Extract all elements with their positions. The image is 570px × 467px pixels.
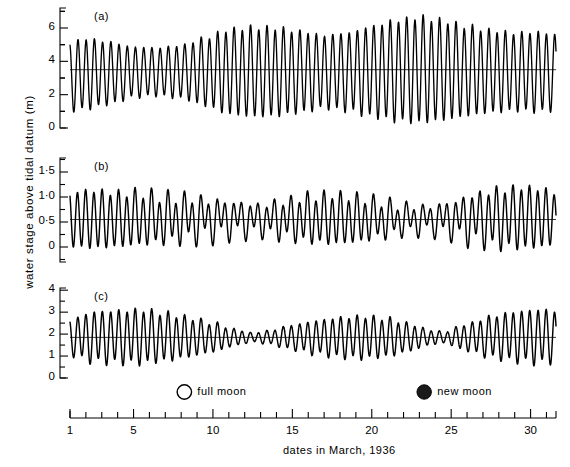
full-moon-icon bbox=[177, 385, 191, 399]
y-tick-label-a-1: 2 bbox=[15, 87, 55, 99]
x-tick-label-3: 15 bbox=[262, 424, 322, 436]
x-tick-label-5: 25 bbox=[421, 424, 481, 436]
panel-label-a: (a) bbox=[94, 10, 109, 22]
y-tick-label-a-0: 0 bbox=[15, 120, 55, 132]
x-axis-caption: dates in March, 1936 bbox=[283, 444, 343, 456]
y-tick-label-c-3: 3 bbox=[15, 304, 55, 316]
x-tick-label-6: 30 bbox=[501, 424, 561, 436]
new-moon-label: new moon bbox=[437, 385, 492, 397]
panel-label-c: (c) bbox=[94, 290, 108, 302]
x-tick-label-4: 20 bbox=[342, 424, 402, 436]
y-tick-label-a-2: 4 bbox=[15, 53, 55, 65]
y-tick-label-c-1: 1 bbox=[15, 348, 55, 360]
y-tick-label-b-0: 0 bbox=[15, 239, 55, 251]
x-tick-label-1: 5 bbox=[104, 424, 164, 436]
y-tick-label-b-3: 1·5 bbox=[15, 164, 55, 176]
x-tick-label-0: 1 bbox=[40, 424, 100, 436]
y-tick-label-b-2: 1·0 bbox=[15, 189, 55, 201]
new-moon-icon bbox=[417, 385, 431, 399]
full-moon-label: full moon bbox=[197, 385, 246, 397]
y-tick-label-c-0: 0 bbox=[15, 370, 55, 382]
y-tick-label-c-2: 2 bbox=[15, 326, 55, 338]
y-tick-label-b-1: 0·5 bbox=[15, 214, 55, 226]
x-tick-label-2: 10 bbox=[183, 424, 243, 436]
panel-label-b: (b) bbox=[94, 160, 109, 172]
y-tick-label-c-4: 4 bbox=[15, 282, 55, 294]
y-tick-label-a-3: 6 bbox=[15, 20, 55, 32]
